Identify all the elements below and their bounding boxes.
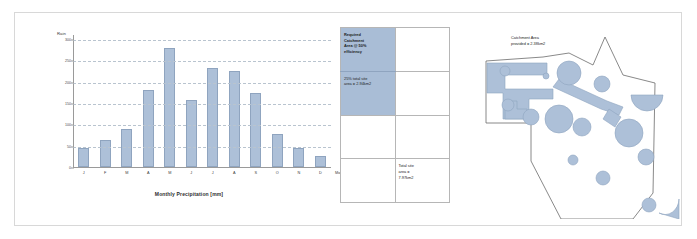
map-catchment-label: Catchment Area provided = 2.38km2 bbox=[511, 35, 545, 47]
chart-bar bbox=[272, 134, 283, 167]
chart-bar-cell bbox=[310, 39, 332, 167]
gridline bbox=[73, 83, 331, 84]
y-tick-mark bbox=[71, 104, 74, 105]
chart-title: Monthly Precipitation [mm] bbox=[39, 191, 339, 197]
chart-bar-cell bbox=[202, 39, 224, 167]
x-tick-label: J bbox=[181, 171, 203, 181]
chart-y-axis-label: Rain bbox=[57, 31, 66, 36]
table-cell-left bbox=[341, 115, 396, 159]
x-tick-label: D bbox=[310, 171, 332, 181]
table-row: Required Catchment Area @ 50% efficiency bbox=[341, 28, 450, 72]
chart-bar-cell bbox=[138, 39, 160, 167]
chart-bar-cell bbox=[116, 39, 138, 167]
chart-bars bbox=[73, 39, 331, 167]
x-tick-label: A bbox=[138, 171, 160, 181]
catchment-area-table: Required Catchment Area @ 50% efficiency… bbox=[340, 27, 450, 203]
chart-bar bbox=[100, 140, 111, 167]
chart-bar bbox=[315, 156, 326, 167]
chart-plot-area: 050100150200250300 bbox=[73, 39, 331, 168]
map-drawing bbox=[483, 23, 683, 219]
y-tick-mark bbox=[71, 82, 74, 83]
table-cell-left: 25% total site area = 2.94km2 bbox=[341, 71, 396, 115]
table: Required Catchment Area @ 50% efficiency… bbox=[340, 27, 450, 203]
precipitation-chart: Rain 050100150200250300 JFMAMJJASOND Mon… bbox=[39, 17, 339, 217]
gridline bbox=[73, 147, 331, 148]
table-row bbox=[341, 115, 450, 159]
x-tick-label: J bbox=[73, 171, 95, 181]
gridline bbox=[73, 104, 331, 105]
chart-bar bbox=[186, 100, 197, 167]
gridline bbox=[73, 40, 331, 41]
chart-x-tick-labels: JFMAMJJASOND bbox=[73, 171, 331, 181]
chart-bar-cell bbox=[159, 39, 181, 167]
x-tick-label: J bbox=[202, 171, 224, 181]
chart-bar bbox=[121, 129, 132, 167]
gridline bbox=[73, 125, 331, 126]
y-tick-mark bbox=[71, 146, 74, 147]
table-cell-left bbox=[341, 159, 396, 203]
y-tick-mark bbox=[71, 61, 74, 62]
chart-bar bbox=[293, 148, 304, 167]
catchment-ponds bbox=[500, 61, 679, 219]
chart-bar-cell bbox=[73, 39, 95, 167]
slide-page: Rain 050100150200250300 JFMAMJJASOND Mon… bbox=[0, 0, 697, 239]
x-tick-label: M bbox=[159, 171, 181, 181]
table-cell-right bbox=[395, 71, 450, 115]
chart-bar-cell bbox=[95, 39, 117, 167]
table-row: Total site area = 7.97km2 bbox=[341, 159, 450, 203]
table-row: 25% total site area = 2.94km2 bbox=[341, 71, 450, 115]
site-catchment-map: Catchment Area provided = 2.38km2 bbox=[483, 23, 683, 219]
chart-bar bbox=[78, 148, 89, 167]
x-tick-label: O bbox=[267, 171, 289, 181]
chart-bar bbox=[143, 90, 154, 167]
x-tick-label: M bbox=[116, 171, 138, 181]
table-cell-right: Total site area = 7.97km2 bbox=[395, 159, 450, 203]
table-cell-right bbox=[395, 28, 450, 72]
x-tick-label: N bbox=[288, 171, 310, 181]
chart-bar-cell bbox=[267, 39, 289, 167]
x-tick-label: F bbox=[95, 171, 117, 181]
table-cell-left: Required Catchment Area @ 50% efficiency bbox=[341, 28, 396, 72]
y-tick-mark bbox=[71, 40, 74, 41]
y-tick-mark bbox=[71, 125, 74, 126]
y-tick-mark bbox=[71, 168, 74, 169]
chart-bar-cell bbox=[224, 39, 246, 167]
gridline bbox=[73, 61, 331, 62]
table-cell-right bbox=[395, 115, 450, 159]
x-tick-label: A bbox=[224, 171, 246, 181]
chart-bar-cell bbox=[288, 39, 310, 167]
chart-bar bbox=[229, 71, 240, 167]
chart-bar-cell bbox=[181, 39, 203, 167]
x-tick-label: S bbox=[245, 171, 267, 181]
slide-frame: Rain 050100150200250300 JFMAMJJASOND Mon… bbox=[14, 12, 682, 226]
chart-x-axis bbox=[73, 167, 331, 168]
chart-bar bbox=[164, 48, 175, 167]
chart-bar-cell bbox=[245, 39, 267, 167]
